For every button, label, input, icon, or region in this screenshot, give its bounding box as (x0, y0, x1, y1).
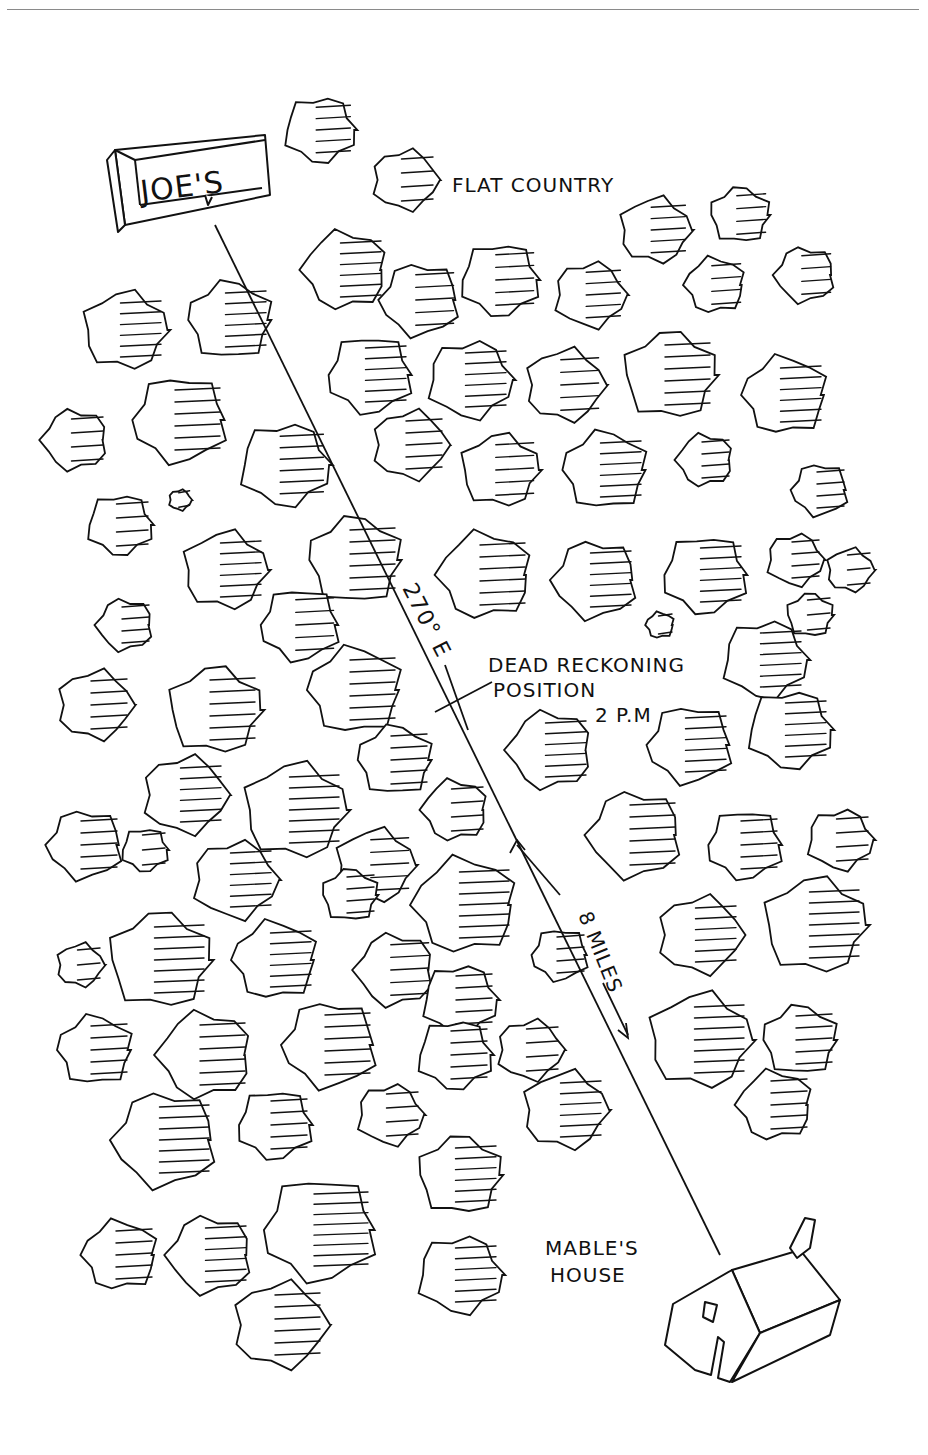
destination-label-line2: HOUSE (550, 1263, 626, 1287)
tree-icon (650, 990, 756, 1088)
tree-icon (827, 547, 875, 592)
tree-icon (307, 645, 401, 730)
tree-icon (59, 668, 135, 741)
tree-icon (261, 593, 339, 663)
destination-label-line1: MABLE'S (545, 1236, 639, 1260)
tree-icon (791, 465, 848, 517)
dr-label-line2: POSITION (493, 678, 596, 702)
tree-icon (708, 814, 782, 880)
tree-icon (808, 810, 876, 872)
tree-icon (763, 1005, 837, 1071)
dr-time-label: 2 P.M (595, 703, 652, 727)
tree-icon (164, 1216, 249, 1296)
tree-icon (675, 433, 731, 487)
tree-icon (88, 497, 154, 555)
tree-icon (132, 381, 226, 466)
tree-icon (647, 709, 732, 786)
tree-icon (504, 710, 588, 791)
tree-icon (95, 599, 152, 653)
tree-icon (264, 1184, 375, 1284)
tree-icon (154, 1010, 248, 1099)
terrain-label: FLAT COUNTRY (452, 173, 614, 197)
tree-icon (419, 1236, 506, 1315)
tree-icon (683, 256, 744, 312)
tree-icon (562, 430, 646, 506)
tree-icon (378, 265, 458, 339)
dr-label-line1: DEAD RECKONING (488, 653, 685, 677)
tree-icon (110, 913, 214, 1005)
tree-icon (235, 1279, 330, 1370)
tree-icon (550, 542, 635, 621)
tree-icon (645, 611, 673, 637)
tree-icon (749, 693, 835, 769)
tree-icon (711, 187, 770, 240)
house-icon (665, 1218, 840, 1382)
tree-icon (498, 1019, 565, 1083)
tree-icon (461, 433, 542, 506)
tree-icon (765, 876, 871, 971)
tree-icon (435, 529, 530, 618)
bearing-label: 270° E (398, 579, 457, 662)
tree-icon (281, 1004, 376, 1091)
tree-icon (309, 516, 401, 599)
tree-icon (45, 812, 121, 882)
tree-icon (532, 931, 588, 982)
tree-icon (123, 830, 170, 871)
tree-icon (245, 761, 351, 858)
tree-icon (80, 1218, 156, 1288)
tree-icon (145, 754, 231, 836)
tree-icon (58, 942, 106, 987)
tree-icon (374, 148, 441, 212)
tree-icon (329, 341, 412, 415)
tree-icon (57, 1014, 132, 1081)
dead-reckoning-marker-icon (435, 665, 492, 730)
tree-icon (620, 195, 693, 263)
tree-icon (285, 99, 357, 163)
tree-icon (375, 409, 451, 482)
tree-icon (429, 341, 516, 421)
tree-icon (299, 229, 384, 309)
tree-icon (787, 594, 834, 635)
forest (39, 99, 875, 1371)
map-canvas: JOE'S FLAT COUNTRY 270° E DEAD RECKONING… (0, 0, 928, 1455)
tree-icon (664, 540, 747, 614)
tree-icon (169, 489, 192, 511)
tree-icon (231, 919, 316, 997)
tree-icon (358, 724, 432, 790)
tree-icon (358, 1084, 426, 1147)
tree-icon (352, 933, 431, 1008)
tree-icon (419, 1137, 503, 1212)
tree-icon (194, 840, 281, 921)
tree-icon (741, 354, 826, 432)
tree-icon (39, 409, 105, 472)
tree-icon (462, 247, 540, 317)
tree-icon (419, 1023, 494, 1090)
tree-icon (188, 280, 271, 355)
tree-icon (585, 792, 680, 881)
tree-icon (184, 529, 271, 609)
tree-icon (625, 332, 719, 416)
tree-icon (420, 778, 486, 840)
tree-icon (410, 855, 514, 952)
tree-icon (735, 1069, 811, 1140)
tree-icon (169, 666, 264, 751)
tree-icon (768, 534, 826, 588)
tree-icon (660, 894, 745, 976)
tree-icon (555, 261, 628, 330)
tree-icon (773, 247, 834, 304)
tree-icon (84, 290, 171, 369)
tree-icon (110, 1093, 214, 1190)
tree-icon (527, 347, 608, 423)
tree-icon (239, 1094, 313, 1160)
